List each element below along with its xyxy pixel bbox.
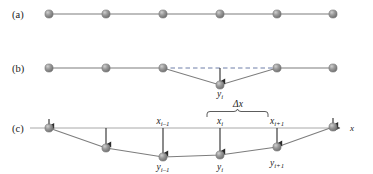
node — [45, 64, 53, 72]
panel-b: (b) yi — [12, 63, 337, 100]
x-axis-label: x — [349, 123, 354, 133]
node-displaced — [273, 143, 281, 151]
node-displaced — [216, 81, 224, 89]
node — [273, 10, 281, 18]
y-i-plus-1-label: yi+1 — [269, 158, 284, 169]
panel-a: (a) — [12, 9, 337, 21]
node-displaced — [159, 153, 167, 161]
y-i-label-panel-c: yi — [216, 162, 223, 173]
node — [159, 64, 167, 72]
x-i-plus-1-label: xi+1 — [269, 116, 284, 127]
figure-container: (a) (b) — [0, 0, 373, 174]
node-displaced — [216, 151, 224, 159]
panel-c-chain-line — [49, 127, 333, 157]
node — [159, 10, 167, 18]
x-i-minus-1-label: xi–1 — [156, 116, 170, 127]
panel-b-chain-line — [49, 68, 333, 85]
panel-b-label: (b) — [12, 63, 25, 75]
x-i-label: xi — [216, 116, 223, 127]
node — [45, 10, 53, 18]
node-endpoint — [329, 123, 337, 131]
delta-x-label: Δx — [232, 99, 244, 109]
node — [216, 10, 224, 18]
node-displaced — [102, 144, 110, 152]
node — [329, 10, 337, 18]
diagram-svg: (a) (b) — [0, 0, 373, 174]
panel-a-label: (a) — [12, 9, 24, 21]
panel-c: (c) x Δx — [12, 99, 354, 173]
panel-c-displacement-arrows — [49, 118, 333, 154]
y-i-minus-1-label: yi–1 — [156, 162, 170, 173]
node — [102, 10, 110, 18]
panel-c-label: (c) — [12, 123, 24, 135]
node — [329, 64, 337, 72]
node — [102, 64, 110, 72]
node — [273, 64, 281, 72]
panel-b-y-i-label: yi — [216, 89, 223, 100]
node-endpoint — [45, 124, 53, 132]
